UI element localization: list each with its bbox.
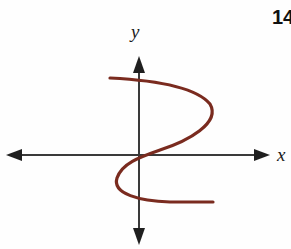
y-axis-bottom-arrowhead: [133, 228, 145, 245]
y-axis: [133, 56, 145, 245]
x-axis-label: x: [277, 145, 285, 164]
figure-container: y x 14: [0, 0, 291, 249]
exercise-number: 14: [272, 6, 291, 29]
relation-curve: [110, 78, 213, 202]
x-axis-right-arrowhead: [254, 149, 270, 161]
coordinate-graph: [0, 0, 291, 249]
y-axis-top-arrowhead: [133, 56, 145, 73]
y-axis-label: y: [131, 22, 139, 41]
x-axis-left-arrowhead: [6, 149, 22, 161]
